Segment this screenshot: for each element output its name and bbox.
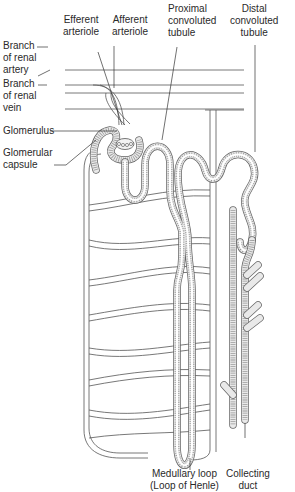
proximal-tubule-label: Proximal convoluted tubule — [168, 3, 216, 39]
renal-vein-branch-label: Branch of renal vein — [3, 78, 36, 114]
afferent-arteriole-label: Afferent arteriole — [112, 14, 148, 38]
nephron-diagram: Efferent arteriole Afferent arteriole Pr… — [0, 0, 295, 492]
glomerulus-label: Glomerulus — [3, 125, 54, 137]
distal-tubule-label: Distal convoluted tubule — [230, 3, 278, 39]
arterioles — [93, 85, 130, 125]
glomerular-capsule-shape — [94, 130, 140, 170]
glomerulus-tuft — [116, 139, 134, 150]
medullary-loop-label: Medullary loop (Loop of Henle) — [150, 468, 219, 492]
nephron-illustration — [0, 0, 295, 492]
collecting-duct-label: Collecting duct — [226, 468, 270, 492]
renal-artery-branch-label: Branch of renal artery — [3, 40, 36, 76]
efferent-arteriole-label: Efferent arteriole — [63, 14, 99, 38]
renal-vessels — [65, 70, 244, 109]
glomerular-capsule-label: Glomerular capsule — [3, 147, 52, 171]
